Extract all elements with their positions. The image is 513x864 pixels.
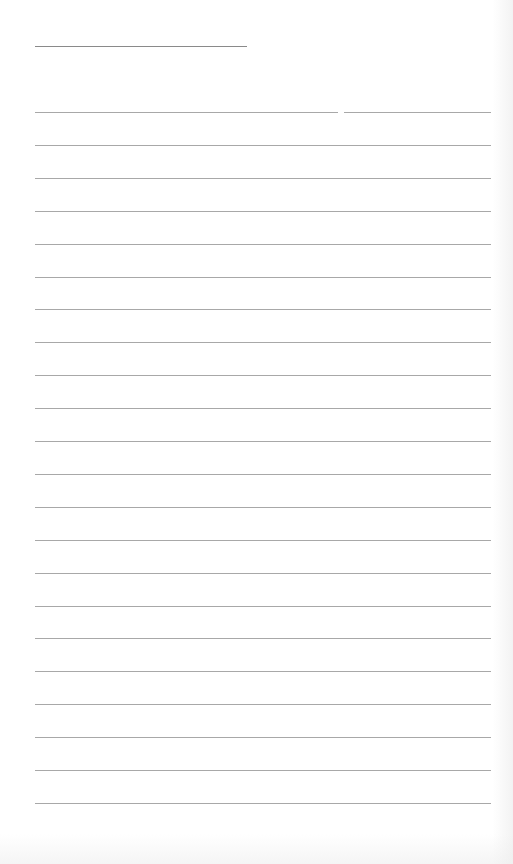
writing-line <box>35 211 491 212</box>
title-field-line <box>35 46 247 47</box>
writing-line <box>35 441 491 442</box>
writing-line <box>35 145 491 146</box>
writing-line <box>35 112 338 113</box>
writing-line <box>35 803 491 804</box>
writing-line <box>35 638 491 639</box>
writing-line <box>35 375 491 376</box>
writing-line <box>35 573 491 574</box>
writing-line <box>35 342 491 343</box>
writing-line <box>35 770 491 771</box>
writing-line <box>35 606 491 607</box>
writing-line <box>35 277 491 278</box>
writing-line <box>344 112 491 113</box>
writing-line <box>35 507 491 508</box>
writing-line <box>35 178 491 179</box>
writing-line <box>35 540 491 541</box>
lined-paper-page <box>0 0 513 864</box>
writing-line <box>35 737 491 738</box>
writing-line <box>35 309 491 310</box>
writing-line <box>35 244 491 245</box>
writing-line <box>35 704 491 705</box>
writing-line <box>35 671 491 672</box>
writing-line <box>35 408 491 409</box>
writing-line <box>35 474 491 475</box>
